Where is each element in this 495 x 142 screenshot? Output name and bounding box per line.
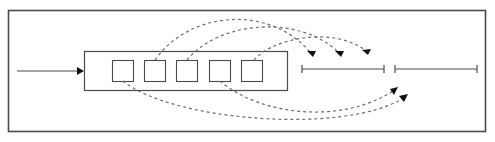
- slot-3: [177, 61, 198, 82]
- arrowhead-icon: [399, 94, 408, 102]
- arc-slot1-to-range2: [123, 81, 402, 119]
- arc-slot5-to-range1: [254, 37, 365, 60]
- arrowhead-icon: [307, 51, 316, 57]
- slot-5: [242, 61, 263, 82]
- slot-mapping-diagram: [0, 0, 495, 142]
- slot-1: [113, 61, 134, 82]
- input-arrow: [17, 67, 84, 75]
- arcs-over: [155, 19, 371, 60]
- arrowhead-icon: [362, 49, 371, 55]
- range-2: [395, 65, 477, 73]
- arc-slot3-to-range1: [187, 27, 338, 60]
- slot-4: [210, 61, 231, 82]
- arcs-under: [123, 81, 408, 119]
- range-1: [302, 65, 384, 73]
- slots: [113, 61, 263, 82]
- container-box: [85, 52, 288, 91]
- arc-slot4-to-range2: [220, 81, 393, 112]
- arc-slot2-to-range1: [155, 19, 310, 60]
- arrowhead-icon: [335, 51, 344, 57]
- arrowhead-icon: [390, 87, 398, 95]
- slot-2: [145, 61, 166, 82]
- arrowhead-icon: [77, 67, 84, 75]
